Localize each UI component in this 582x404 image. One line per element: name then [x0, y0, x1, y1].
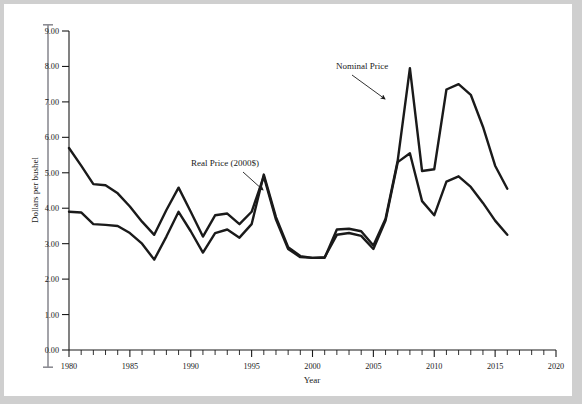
- y-axis-title: Dollars per bushel: [30, 157, 40, 223]
- y-tick-label: 8.00: [45, 62, 59, 71]
- data-series-layer: [69, 68, 507, 259]
- y-axis: 0.001.002.003.004.005.006.007.008.009.00…: [30, 27, 69, 355]
- real-price-annotation-arrow: [243, 172, 263, 190]
- y-tick-label: 9.00: [45, 27, 59, 36]
- series-line-real-price: [69, 68, 507, 258]
- y-axis-ticks: [62, 31, 69, 350]
- x-tick-label: 1995: [243, 362, 259, 371]
- y-tick-label: 0.00: [45, 346, 59, 355]
- x-axis-title: Year: [304, 375, 321, 385]
- x-tick-label: 2000: [304, 362, 320, 371]
- nominal-price-annotation-label: Nominal Price: [336, 61, 388, 71]
- x-tick-label: 1990: [183, 362, 199, 371]
- y-tick-label: 7.00: [45, 98, 59, 107]
- nominal-price-annotation-arrow: [352, 75, 385, 99]
- x-tick-label: 2010: [426, 362, 442, 371]
- x-tick-label: 2005: [365, 362, 381, 371]
- x-tick-label: 1985: [122, 362, 138, 371]
- y-tick-label: 5.00: [45, 169, 59, 178]
- real-price-annotation-label: Real Price (2000$): [191, 158, 259, 168]
- y-tick-label: 4.00: [45, 204, 59, 213]
- line-chart-plot: 0.001.002.003.004.005.006.007.008.009.00…: [0, 0, 582, 404]
- x-axis: 198019851990199520002005201020152020 Yea…: [61, 350, 564, 385]
- series-line-nominal-price: [69, 153, 507, 259]
- y-tick-label: 1.00: [45, 311, 59, 320]
- y-axis-tick-labels: 0.001.002.003.004.005.006.007.008.009.00: [45, 27, 59, 355]
- x-tick-label: 1980: [61, 362, 77, 371]
- x-tick-label: 2020: [548, 362, 564, 371]
- annotation-layer: Nominal PriceReal Price (2000$): [191, 61, 388, 190]
- y-tick-label: 3.00: [45, 240, 59, 249]
- chart-figure: 0.001.002.003.004.005.006.007.008.009.00…: [0, 0, 582, 404]
- y-tick-label: 6.00: [45, 133, 59, 142]
- y-tick-label: 2.00: [45, 275, 59, 284]
- x-axis-tick-labels: 198019851990199520002005201020152020: [61, 362, 564, 371]
- x-tick-label: 2015: [487, 362, 503, 371]
